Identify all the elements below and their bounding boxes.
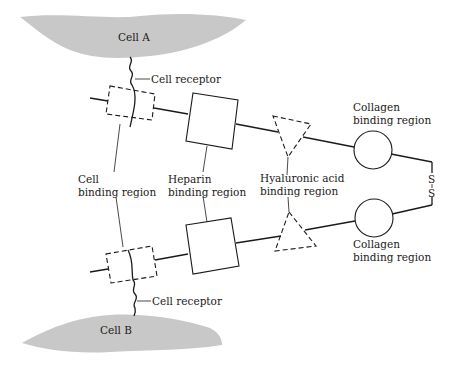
svg-text:Cell: Cell [78, 173, 100, 185]
heparin-leader-bottom [203, 196, 207, 222]
top-chain [90, 86, 432, 173]
collagen-binding-region-top [354, 131, 392, 169]
svg-text:Collagen: Collagen [353, 238, 400, 250]
cell-b-label: Cell B [100, 324, 132, 336]
collagen-binding-region-bottom [355, 199, 393, 237]
heparin-leader-top [203, 146, 207, 172]
disulfide-s1: S [428, 173, 435, 185]
collagen-label-top: Collagen binding region [353, 101, 431, 126]
svg-text:binding region: binding region [353, 251, 431, 263]
svg-text:Collagen: Collagen [353, 101, 400, 113]
cell-receptor-top-label: Cell receptor [151, 73, 222, 85]
cell-a-label: Cell A [118, 31, 150, 43]
hyaluronic-binding-region-top [273, 116, 311, 157]
hyaluronic-leader-bottom [288, 197, 289, 212]
fibronectin-diagram: Cell A Cell B Cell receptor Cell recepto… [0, 0, 457, 365]
cell-binding-leader-bottom [116, 197, 123, 247]
disulfide-s2: S [428, 187, 435, 199]
cell-receptor-bottom-label: Cell receptor [152, 295, 223, 307]
cell-binding-label: Cell binding region [78, 173, 156, 198]
svg-text:Hyaluronic acid: Hyaluronic acid [260, 172, 345, 184]
cell-binding-leader-top [114, 124, 120, 172]
heparin-binding-region-top [186, 93, 238, 149]
heparin-label: Heparin binding region [168, 173, 246, 198]
disulfide-bond: S S [428, 173, 435, 199]
collagen-label-bottom: Collagen binding region [353, 238, 431, 263]
heparin-binding-region-bottom [186, 218, 239, 274]
svg-text:binding region: binding region [260, 185, 338, 197]
svg-text:binding region: binding region [78, 186, 156, 198]
cell-binding-region-top [106, 86, 155, 120]
cell-a: Cell A [20, 14, 246, 58]
svg-text:binding region: binding region [168, 186, 246, 198]
hyaluronic-label: Hyaluronic acid binding region [260, 172, 345, 197]
cell-receptor-top [129, 57, 135, 127]
svg-text:Heparin: Heparin [168, 173, 212, 185]
hyaluronic-binding-region-bottom [275, 212, 316, 251]
cell-b: Cell B [22, 315, 222, 353]
cell-receptor-bottom [128, 250, 137, 316]
svg-text:binding region: binding region [353, 114, 431, 126]
